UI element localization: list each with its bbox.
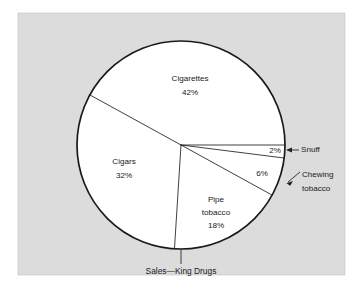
pipe-label-name-line2: tobacco [202,208,231,217]
cigarettes-label-name: Cigarettes [172,74,209,83]
snuff-name-label: Snuff [301,145,321,154]
figure-caption: Sales—King Drugs [146,266,217,276]
pipe-label-percent: 18% [208,221,224,230]
pie-chart-figure: Cigarettes 42% Cigars 32% Pipe tobacco 1… [0,0,360,287]
pipe-label-name-line1: Pipe [208,195,225,204]
chewing-name-label-line1: Chewing [302,170,334,179]
chewing-name-label-line2: tobacco [302,184,331,193]
snuff-percent-label: 2% [269,146,281,155]
chewing-percent-label: 6% [256,169,268,178]
cigars-label-name: Cigars [112,157,135,166]
cigarettes-label-percent: 42% [182,88,198,97]
cigars-label-percent: 32% [116,171,132,180]
